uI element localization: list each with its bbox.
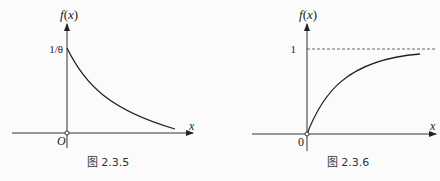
x-axis-label: x [429, 119, 436, 133]
origin-label: O [57, 134, 66, 148]
cdf-curve [307, 54, 420, 134]
density-curve [67, 48, 175, 129]
y-tick-label: 1 [291, 43, 297, 55]
y-tick-label: 1/θ [49, 43, 63, 55]
origin-label: 0 [298, 135, 304, 149]
figures-canvas: f(x) 1/θ x O 图 2.3.5 f(x) 1 x 0 图 2.3.6 [0, 0, 440, 181]
y-axis-label: f(x) [60, 7, 78, 22]
figure-2-3-6: f(x) 1 x 0 图 2.3.6 [252, 7, 437, 169]
figure-caption: 图 2.3.6 [327, 156, 370, 169]
figure-caption: 图 2.3.5 [87, 156, 130, 169]
x-axis-label: x [188, 119, 195, 133]
origin-open-point [305, 132, 309, 136]
figure-2-3-5: f(x) 1/θ x O 图 2.3.5 [12, 7, 195, 169]
y-axis-label: f(x) [299, 7, 317, 22]
